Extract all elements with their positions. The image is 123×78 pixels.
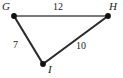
vertex-dot-H bbox=[105, 13, 111, 19]
vertex-label-G: G bbox=[2, 1, 10, 12]
edge-length-label-GI: 7 bbox=[13, 40, 18, 50]
vertex-label-I: I bbox=[48, 64, 52, 75]
edge-length-label-GH: 12 bbox=[53, 2, 63, 12]
vertex-dot-G bbox=[11, 13, 17, 19]
vertex-dot-I bbox=[40, 61, 46, 67]
edge-length-label-IH: 10 bbox=[76, 41, 86, 51]
edge-GI bbox=[14, 16, 43, 64]
triangle-figure: G H I 12 7 10 bbox=[0, 0, 123, 78]
vertex-label-H: H bbox=[109, 1, 117, 12]
